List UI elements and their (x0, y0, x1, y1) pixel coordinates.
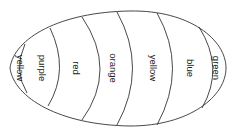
band-label-5: yellow (148, 55, 159, 82)
band-label-1: yellow (15, 55, 26, 82)
band-label-7: green (211, 56, 222, 80)
band-label-4: orange (108, 53, 119, 83)
band-label-2: purple (37, 55, 48, 81)
egg-diagram: yellow purple red orange yellow blue gre… (0, 0, 235, 132)
band-label-6: blue (185, 59, 196, 77)
band-label-3: red (71, 61, 82, 75)
